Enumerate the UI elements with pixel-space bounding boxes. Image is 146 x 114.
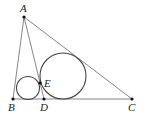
point-E (38, 81, 41, 84)
large-incircle (40, 53, 86, 99)
segment-AB (13, 17, 24, 99)
diagram-canvas: A B C D E (0, 0, 146, 114)
point-A (22, 15, 25, 18)
small-incircle (17, 77, 40, 100)
label-A: A (19, 2, 27, 14)
label-B: B (8, 101, 15, 113)
label-D: D (39, 101, 48, 113)
geometry-diagram: A B C D E (0, 0, 146, 114)
label-C: C (128, 101, 136, 113)
label-E: E (43, 77, 51, 89)
segment-AD (24, 17, 44, 99)
